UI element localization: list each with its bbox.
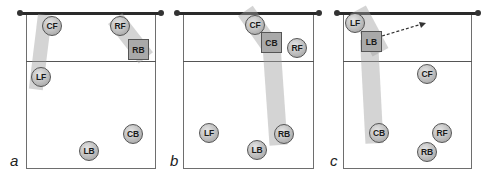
panel-label-a: a: [10, 152, 18, 169]
player-lf: LF: [345, 13, 365, 33]
player-cb: CB: [369, 123, 389, 143]
player-label: LF: [350, 18, 360, 28]
player-rb: RB: [417, 142, 437, 162]
player-lb: LB: [247, 140, 267, 160]
player-label: CF: [422, 69, 433, 79]
setter-label: RB: [132, 45, 144, 55]
player-label: LF: [204, 128, 214, 138]
player-lf: LF: [199, 123, 219, 143]
player-label: RB: [421, 147, 433, 157]
player-label: RF: [292, 43, 303, 53]
setter-rb: RB: [128, 39, 149, 60]
net-post-left-a: [17, 10, 23, 16]
player-label: LB: [84, 146, 95, 156]
net-post-left-b: [174, 10, 180, 16]
player-rf: RF: [287, 38, 307, 58]
setter-lb: LB: [361, 31, 382, 52]
panel-label-b: b: [170, 152, 178, 169]
panel-label-c: c: [330, 152, 338, 169]
player-label: LB: [252, 145, 263, 155]
player-label: LF: [36, 72, 46, 82]
player-cf: CF: [417, 64, 437, 84]
setter-label: LB: [366, 37, 377, 47]
player-label: CB: [127, 129, 139, 139]
player-lb: LB: [79, 141, 99, 161]
player-label: CB: [373, 128, 385, 138]
net-post-right-a: [158, 10, 164, 16]
player-label: RB: [278, 129, 290, 139]
player-label: CF: [250, 20, 261, 30]
player-rf: RF: [110, 16, 130, 36]
player-cb: CB: [123, 124, 143, 144]
setter-label: CB: [265, 38, 277, 48]
player-cf: CF: [42, 16, 62, 36]
player-rf: RF: [432, 123, 452, 143]
player-label: RF: [115, 21, 126, 31]
setter-cb: CB: [261, 32, 282, 53]
dashed-arrow-icon: [380, 18, 430, 40]
net-post-right-b: [316, 10, 322, 16]
net-post-left-c: [334, 10, 340, 16]
player-label: RF: [437, 128, 448, 138]
player-lf: LF: [31, 67, 51, 87]
net-post-right-c: [475, 10, 481, 16]
player-label: CF: [47, 21, 58, 31]
attack-line-b: [183, 61, 314, 62]
player-rb: RB: [274, 124, 294, 144]
